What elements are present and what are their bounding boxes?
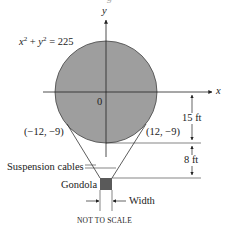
circle-equation: x2 + y2 = 225: [19, 37, 73, 48]
suspension-cables-label: Suspension cables: [7, 162, 84, 173]
point-right-label: (12, −9): [146, 127, 180, 138]
eq-rhs: = 225: [47, 36, 74, 47]
width-label: Width: [129, 196, 155, 207]
eq-plus: +: [27, 36, 38, 47]
y-axis-label: y: [102, 6, 107, 17]
not-to-scale-note: NOT TO SCALE: [77, 217, 132, 225]
partial-title-text: g: [107, 0, 112, 4]
gondola: [100, 178, 112, 190]
dimension-15ft-label: 15 ft: [182, 113, 202, 124]
origin-label: 0: [97, 97, 102, 108]
point-left-label: (−12, −9): [24, 127, 64, 138]
gondola-label: Gondola: [61, 180, 97, 191]
x-axis-label: x: [216, 86, 221, 97]
dimension-8ft-label: 8 ft: [184, 155, 198, 166]
